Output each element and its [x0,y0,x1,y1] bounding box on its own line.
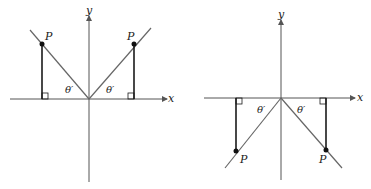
point-p-q2 [40,42,45,47]
x-axis-label: x [357,91,364,104]
terminal-ray-q4 [281,98,342,168]
point-label-q1: P [126,30,135,43]
y-axis-label: y [85,4,93,17]
terminal-ray-q1 [89,28,151,99]
x-axis-label: x [168,92,175,105]
terminal-ray-q3 [225,98,281,168]
point-p-q3 [234,149,239,154]
right-angle-mark-q1 [128,93,134,99]
right-angle-mark-q4 [320,98,326,104]
point-p-q4 [324,148,329,153]
reference-angle-figure: x y P θ′ P θ′ x y P θ′ P θ′ [0,0,371,189]
point-label-q3: P [239,153,248,166]
angle-label-q4: θ′ [297,104,306,115]
angle-label-q1: θ′ [106,84,115,95]
point-label-q2: P [44,30,53,43]
right-angle-mark-q2 [42,93,48,99]
terminal-ray-q2 [30,30,89,99]
y-axis-label: y [277,8,285,21]
point-label-q4: P [318,153,327,166]
left-diagram: x y P θ′ P θ′ [10,4,175,182]
right-diagram: x y P θ′ P θ′ [204,8,364,180]
angle-label-q2: θ′ [65,84,74,95]
angle-label-q3: θ′ [257,104,266,115]
right-angle-mark-q3 [236,98,242,104]
